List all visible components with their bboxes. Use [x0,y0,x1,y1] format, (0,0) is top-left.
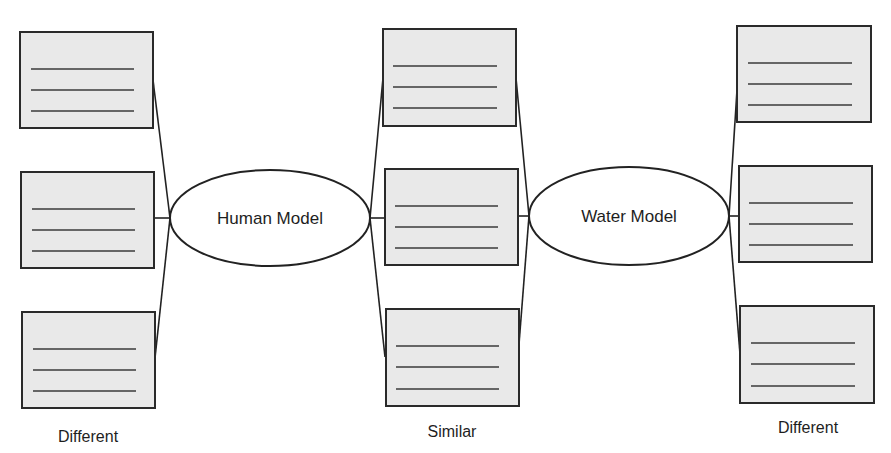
left-box-3 [22,312,155,408]
middle-column-label: Similar [428,423,478,440]
middle-box-2 [385,169,518,265]
water-model-label: Water Model [581,207,677,226]
right-box-2 [739,166,872,262]
middle-box-1 [383,29,516,126]
compare-contrast-diagram: Human Model Water Model Different Simila… [0,0,891,453]
right-column-boxes [737,26,874,403]
right-column-label: Different [778,419,839,436]
middle-column-boxes [383,29,519,406]
right-box-3 [740,306,874,403]
right-box-1 [737,26,871,122]
water-model-node: Water Model [529,167,729,265]
left-box-1 [20,32,153,128]
left-column-label: Different [58,428,119,445]
middle-box-3 [386,309,519,406]
human-model-label: Human Model [217,209,323,228]
human-model-node: Human Model [170,170,370,266]
left-column-boxes [20,32,155,408]
left-box-2 [21,172,154,268]
